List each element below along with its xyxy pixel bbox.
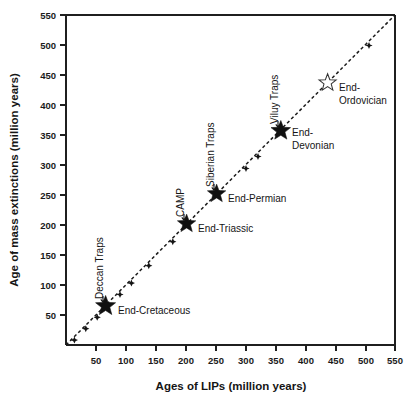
- y-tick-label: 300: [40, 160, 56, 171]
- x-axis-tick-labels: 50 100 150 200 250 300 350 400 450 500 5…: [91, 355, 403, 366]
- y-tick-label: 200: [40, 220, 56, 231]
- x-tick-label: 500: [358, 355, 374, 366]
- y-tick-label: 550: [40, 10, 56, 21]
- x-tick-label: 550: [387, 355, 403, 366]
- x-tick-label: 200: [178, 355, 194, 366]
- one-to-one-reference-line: [66, 15, 395, 345]
- small-star-marker: [82, 325, 89, 332]
- x-axis-ticks: [96, 345, 395, 351]
- small-star-marker: [116, 291, 123, 298]
- lip-label-camp: CAMP: [175, 188, 186, 217]
- label-end-cretaceous: End-Cretaceous: [118, 305, 190, 316]
- x-tick-label: 450: [328, 355, 344, 366]
- y-tick-label: 50: [45, 310, 56, 321]
- lip-label-viluy-traps: Viluy Traps: [269, 75, 280, 124]
- x-tick-label: 50: [91, 355, 102, 366]
- y-tick-label: 350: [40, 130, 56, 141]
- extinction-annotations: End-Cretaceous End-Triassic End-Permian …: [118, 82, 387, 316]
- label-end-triassic: End-Triassic: [198, 223, 253, 234]
- label-end-devonian-line1: End-: [292, 127, 313, 138]
- small-star-marker: [128, 280, 135, 287]
- y-tick-label: 450: [40, 70, 56, 81]
- chart-figure: 50 100 150 200 250 300 350 400 450 500 5…: [0, 0, 416, 407]
- y-tick-label: 100: [40, 280, 56, 291]
- label-end-ordovician-line1: End-: [339, 82, 360, 93]
- lip-label-siberian-traps: Siberian Traps: [205, 123, 216, 187]
- x-tick-label: 350: [268, 355, 284, 366]
- label-end-permian: End-Permian: [228, 193, 286, 204]
- label-end-ordovician-line2: Ordovician: [339, 95, 387, 106]
- lip-label-deccan-traps: Deccan Traps: [94, 237, 105, 299]
- x-tick-label: 250: [208, 355, 224, 366]
- small-star-marker: [145, 262, 152, 269]
- y-tick-label: 500: [40, 40, 56, 51]
- x-tick-label: 100: [118, 355, 134, 366]
- x-tick-label: 300: [238, 355, 254, 366]
- y-tick-label: 400: [40, 100, 56, 111]
- y-tick-label: 150: [40, 250, 56, 261]
- leader-arrows: [101, 121, 280, 302]
- label-end-devonian-line2: Devonian: [292, 140, 334, 151]
- x-axis-title: Ages of LIPs (million years): [156, 380, 307, 392]
- scatter-plot: 50 100 150 200 250 300 350 400 450 500 5…: [0, 0, 416, 407]
- small-star-marker: [169, 238, 176, 245]
- y-tick-label: 250: [40, 190, 56, 201]
- y-axis-tick-labels: 50 100 150 200 250 300 350 400 450 500 5…: [40, 10, 56, 321]
- x-tick-label: 400: [298, 355, 314, 366]
- small-star-marker: [94, 314, 101, 321]
- x-tick-label: 150: [148, 355, 164, 366]
- small-star-marker: [71, 337, 78, 344]
- lip-annotations: Deccan Traps CAMP Siberian Traps Viluy T…: [94, 75, 280, 299]
- y-axis-title: Age of mass extinctions (million years): [8, 73, 20, 287]
- y-axis-ticks: [60, 15, 66, 315]
